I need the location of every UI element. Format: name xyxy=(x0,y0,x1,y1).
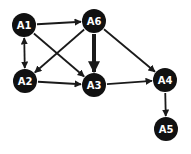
node-a2: A2 xyxy=(13,69,37,93)
node-a5: A5 xyxy=(154,117,178,141)
edge-a1-a2 xyxy=(24,38,25,68)
edge-layer xyxy=(24,22,166,116)
edge-a3-a4 xyxy=(107,81,152,84)
edge-a1-a3 xyxy=(34,33,84,76)
node-label: A1 xyxy=(17,20,32,31)
edge-a6-a2 xyxy=(35,30,84,73)
node-label: A4 xyxy=(158,75,173,86)
node-a6: A6 xyxy=(82,9,106,33)
node-a3: A3 xyxy=(82,73,106,97)
node-label: A3 xyxy=(87,80,102,91)
edge-a2-a3 xyxy=(38,82,81,84)
directed-graph: A1A6A2A3A4A5 xyxy=(0,0,191,154)
node-a1: A1 xyxy=(12,13,36,37)
node-layer: A1A6A2A3A4A5 xyxy=(12,9,178,141)
node-label: A2 xyxy=(18,76,33,87)
edge-a6-a4 xyxy=(104,29,155,71)
node-a4: A4 xyxy=(153,68,177,92)
node-label: A5 xyxy=(159,124,174,135)
edge-a1-a6 xyxy=(37,22,81,25)
node-label: A6 xyxy=(87,16,102,27)
